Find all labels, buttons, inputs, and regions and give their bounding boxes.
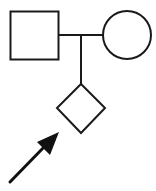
- proband-arrow-icon: [10, 132, 59, 182]
- father-square: [11, 12, 59, 60]
- child-diamond: [57, 84, 105, 133]
- mother-circle: [103, 11, 151, 59]
- pedigree-diagram: [0, 0, 156, 191]
